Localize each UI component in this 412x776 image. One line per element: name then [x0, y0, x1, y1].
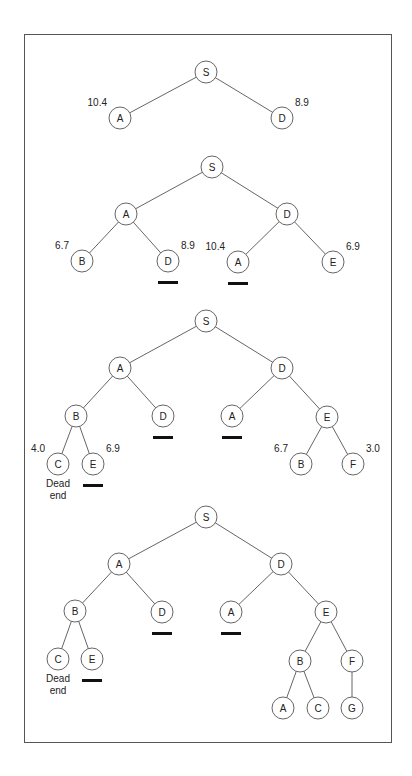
tree-node: D [151, 601, 173, 623]
tree-node: B [65, 405, 87, 427]
node-label: E [89, 654, 96, 665]
edge-t2-S-t2-A [126, 167, 212, 214]
node-label: D [164, 256, 171, 267]
node-label: D [158, 607, 165, 618]
dead-end-note: end [50, 490, 67, 501]
edge-t4-S-t4-A [119, 517, 206, 564]
edge-t1-S-t1-A [120, 72, 206, 118]
nodes-layer: SADSADBDAESADBDAECEBFSADBDAECEBFACG [47, 61, 364, 719]
tree-node: A [108, 553, 130, 575]
tree-node: A [221, 405, 243, 427]
underline-mark [153, 436, 173, 439]
cost-label: 10.4 [206, 241, 226, 252]
node-label: D [278, 113, 285, 124]
tree-node: E [81, 648, 103, 670]
tree-node: D [276, 203, 298, 225]
node-label: F [349, 656, 355, 667]
node-label: D [159, 411, 166, 422]
cost-label: 6.7 [274, 443, 288, 454]
node-label: S [209, 162, 216, 173]
cost-label: 3.0 [366, 443, 380, 454]
tree-node: D [157, 250, 179, 272]
tree-node: S [201, 156, 223, 178]
tree-node: S [195, 506, 217, 528]
tree-step-4 [58, 517, 352, 708]
node-label: B [298, 459, 305, 470]
tree-node: A [272, 697, 294, 719]
tree-node: D [152, 405, 174, 427]
tree-node: B [71, 250, 93, 272]
cost-label: 6.9 [106, 443, 120, 454]
edge-t4-S-t4-D [206, 517, 281, 564]
underline-mark [228, 282, 248, 285]
tree-node: A [109, 107, 131, 129]
node-label: A [280, 703, 287, 714]
node-label: B [73, 411, 80, 422]
underline-mark [83, 484, 103, 487]
tree-node: F [341, 650, 363, 672]
dead-end-note: Dead [46, 478, 70, 489]
tree-node: B [289, 650, 311, 672]
node-label: S [203, 512, 210, 523]
tree-node: A [109, 357, 131, 379]
tree-node: D [271, 107, 293, 129]
edge-t1-S-t1-D [206, 72, 282, 118]
node-label: C [314, 703, 321, 714]
tree-node: C [47, 453, 69, 475]
node-label: C [54, 459, 61, 470]
node-label: B [79, 256, 86, 267]
node-label: A [229, 411, 236, 422]
node-label: A [123, 209, 130, 220]
tree-node: F [342, 453, 364, 475]
node-label: E [323, 607, 330, 618]
node-label: D [278, 363, 285, 374]
tree-step-3 [58, 321, 353, 464]
dead-end-note: end [50, 685, 67, 696]
underline-mark [222, 436, 242, 439]
tree-node: A [227, 251, 249, 273]
underline-mark [152, 632, 172, 635]
node-label: E [90, 459, 97, 470]
node-label: A [235, 257, 242, 268]
tree-node: E [322, 251, 344, 273]
tree-node: D [270, 553, 292, 575]
cost-label: 10.4 [88, 97, 108, 108]
cost-label: 8.9 [295, 97, 309, 108]
tree-node: D [271, 357, 293, 379]
tree-node: E [316, 406, 338, 428]
dead-end-note: Dead [46, 673, 70, 684]
node-label: D [277, 559, 284, 570]
search-tree-diagram: SADSADBDAESADBDAECEBFSADBDAECEBFACG 10.4… [0, 0, 412, 776]
node-label: E [324, 412, 331, 423]
node-label: E [330, 257, 337, 268]
tree-node: C [47, 648, 69, 670]
cost-label: 6.7 [55, 240, 69, 251]
node-label: A [117, 363, 124, 374]
node-label: B [72, 606, 79, 617]
tree-node: C [307, 697, 329, 719]
node-label: A [116, 559, 123, 570]
underline-mark [82, 679, 102, 682]
cost-label: 6.9 [346, 241, 360, 252]
tree-node: A [220, 601, 242, 623]
node-label: G [348, 703, 356, 714]
tree-node: G [341, 697, 363, 719]
edge-t2-S-t2-D [212, 167, 287, 214]
tree-node: B [64, 600, 86, 622]
tree-node: S [195, 310, 217, 332]
node-label: D [283, 209, 290, 220]
underline-mark [221, 632, 241, 635]
node-label: S [203, 316, 210, 327]
node-label: A [228, 607, 235, 618]
underline-mark [158, 281, 178, 284]
tree-node: A [115, 203, 137, 225]
cost-label: 8.9 [181, 240, 195, 251]
node-label: B [297, 656, 304, 667]
tree-node: E [82, 453, 104, 475]
node-label: S [203, 67, 210, 78]
node-label: C [54, 654, 61, 665]
tree-node: B [290, 453, 312, 475]
node-label: A [117, 113, 124, 124]
edge-t3-S-t3-A [120, 321, 206, 368]
edge-t3-S-t3-D [206, 321, 282, 368]
